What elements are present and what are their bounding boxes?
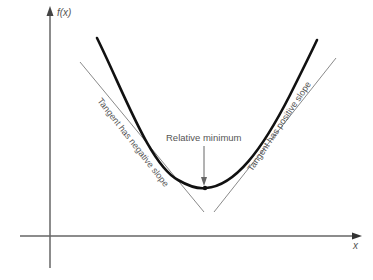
negative-slope-label: Tangent has negative slope xyxy=(95,96,170,189)
down-arrow-icon xyxy=(201,177,207,186)
positive-slope-label: Tangent has positive slope xyxy=(245,80,313,174)
x-axis-label: x xyxy=(352,240,359,251)
y-axis xyxy=(47,6,54,268)
minimum-arrow xyxy=(201,146,207,186)
relative-minimum-label: Relative minimum xyxy=(166,132,242,143)
y-axis-arrow-icon xyxy=(47,6,54,16)
x-axis-arrow-icon xyxy=(352,233,362,240)
x-axis xyxy=(20,233,362,240)
minimum-diagram: f(x) x Relative minimum Tangent has nega… xyxy=(0,0,373,280)
y-axis-label: f(x) xyxy=(57,7,71,18)
minimum-point xyxy=(203,186,207,190)
